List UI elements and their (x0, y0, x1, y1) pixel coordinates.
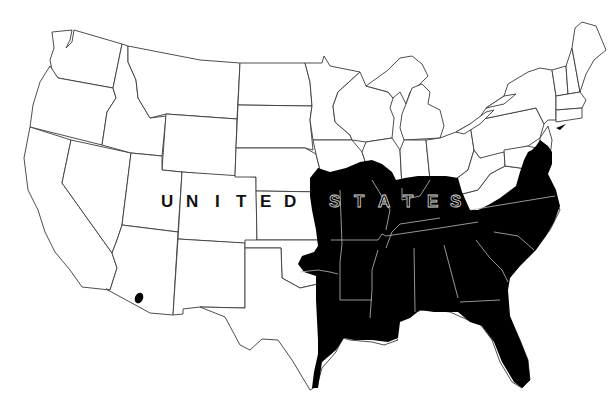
label-letter: U (161, 192, 173, 211)
label-letter: E (427, 192, 438, 211)
label-letter: E (260, 192, 271, 211)
label-letter: T (403, 192, 414, 211)
state-wyoming (162, 114, 237, 177)
label-letter: A (378, 192, 390, 211)
long-island-spot (556, 124, 566, 130)
state-new-mexico (173, 239, 245, 315)
label-letter: N (186, 192, 198, 211)
label-letter: S (450, 192, 461, 211)
label-letter: T (354, 192, 365, 211)
state-north-dakota (238, 63, 312, 106)
label-letter: S (329, 192, 340, 211)
state-south-dakota (236, 105, 313, 150)
state-montana (128, 46, 240, 119)
state-connecticut-ri (556, 108, 582, 122)
label-letter: T (236, 192, 247, 211)
southeastern-range-area (298, 140, 560, 388)
us-range-map: U N I T E D S T A T E S (0, 0, 615, 408)
label-letter: D (284, 192, 296, 211)
label-letter: I (215, 192, 220, 211)
